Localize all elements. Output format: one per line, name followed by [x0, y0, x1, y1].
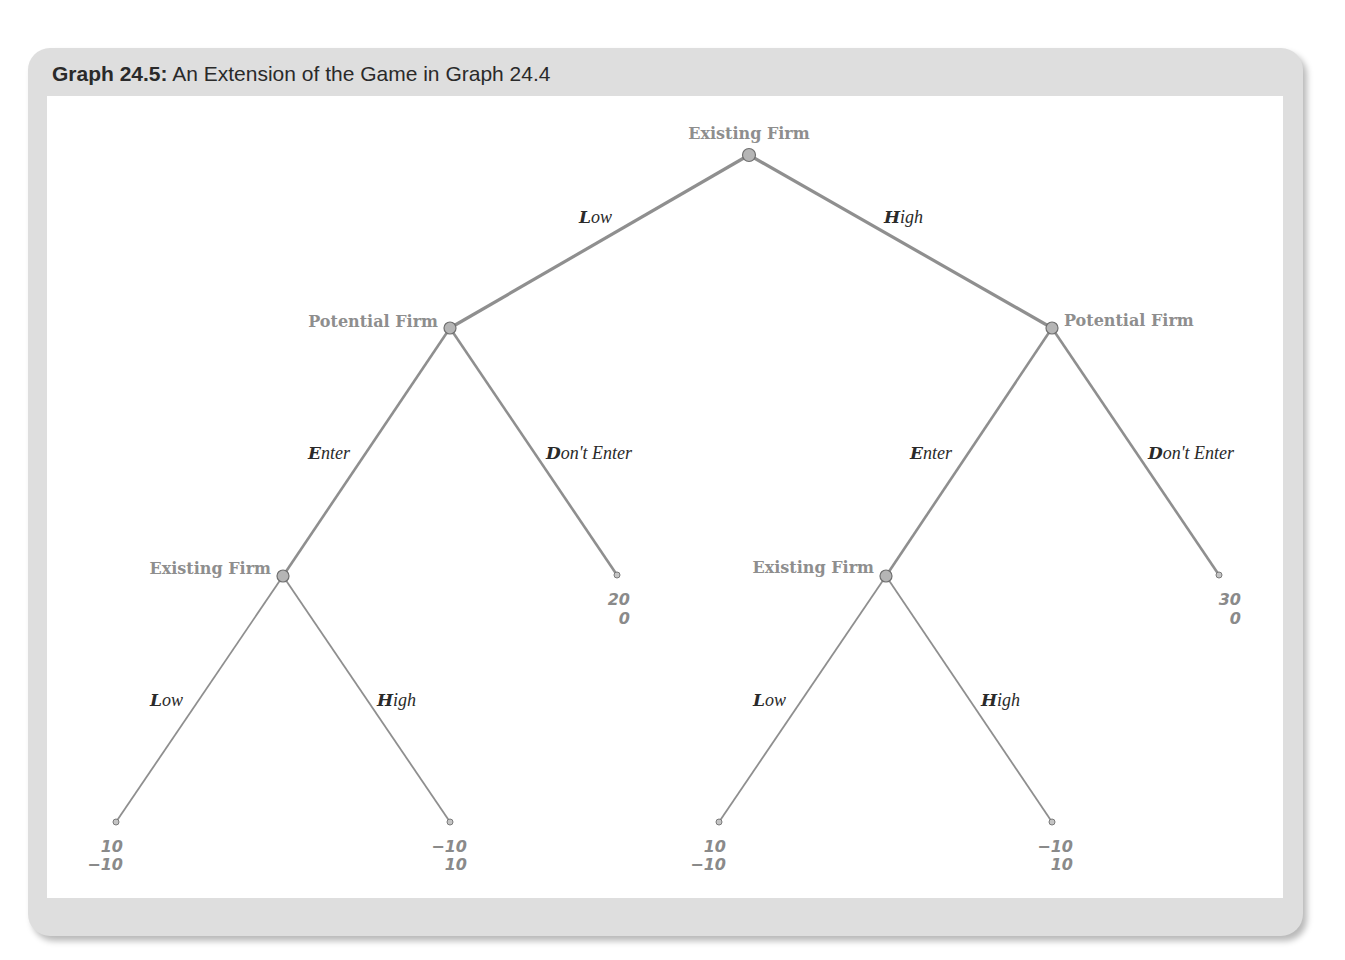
game-tree: Existing Firm Potential Firm Potential F…	[0, 0, 1345, 960]
edge-label-rest: on't Enter	[561, 443, 633, 463]
node-left-potential	[444, 322, 456, 334]
edge-label-rest: on't Enter	[1163, 443, 1235, 463]
edge-label-right-high: High	[980, 690, 1020, 710]
edge-root-low	[450, 155, 749, 328]
terminal-right-low	[716, 819, 722, 825]
edge-label-cap: L	[578, 207, 591, 227]
node-label-right-existing: Existing Firm	[753, 558, 875, 577]
edge-label-cap: L	[149, 690, 162, 710]
edge-label-rest: nter	[923, 443, 953, 463]
edge-label-cap: L	[752, 690, 765, 710]
node-label-left-existing: Existing Firm	[150, 559, 272, 578]
edge-label-cap: D	[545, 443, 561, 463]
payoff-left-low-potential: −10	[87, 855, 123, 874]
edge-label-right-dont-enter: Don't Enter	[1147, 443, 1235, 463]
terminal-left-dont-enter	[614, 572, 620, 578]
edge-left-high	[283, 576, 450, 822]
edge-label-cap: E	[909, 443, 924, 463]
payoff-left-low-existing: 10	[101, 837, 123, 856]
edge-label-cap: H	[376, 690, 394, 710]
edge-label-left-low: Low	[149, 690, 183, 710]
node-right-potential	[1046, 322, 1058, 334]
node-label-root: Existing Firm	[688, 124, 810, 143]
edge-label-left-dont-enter: Don't Enter	[545, 443, 633, 463]
node-label-left-potential: Potential Firm	[308, 312, 438, 331]
terminal-left-low	[113, 819, 119, 825]
edge-right-high	[886, 576, 1052, 822]
node-label-right-potential: Potential Firm	[1064, 311, 1194, 330]
edge-label-rest: igh	[997, 690, 1020, 710]
edge-label-cap: H	[883, 207, 901, 227]
payoff-right-dont-enter-potential: 0	[1230, 609, 1241, 628]
edge-label-left-high: High	[376, 690, 416, 710]
edge-label-root-low: Low	[578, 207, 612, 227]
edge-label-cap: D	[1147, 443, 1163, 463]
edge-label-rest: nter	[321, 443, 351, 463]
payoff-left-dont-enter-existing: 20	[608, 590, 630, 609]
terminal-right-dont-enter	[1216, 572, 1222, 578]
node-left-existing	[277, 570, 289, 582]
payoff-left-high-potential: 10	[445, 855, 467, 874]
payoff-right-low-potential: −10	[690, 855, 726, 874]
payoff-left-dont-enter-potential: 0	[619, 609, 630, 628]
edge-label-right-low: Low	[752, 690, 786, 710]
terminal-left-high	[447, 819, 453, 825]
edge-label-rest: ow	[765, 690, 786, 710]
edge-left-low	[116, 576, 283, 822]
edge-label-right-enter: Enter	[909, 443, 953, 463]
payoff-right-dont-enter-existing: 30	[1219, 590, 1241, 609]
edge-label-cap: H	[980, 690, 998, 710]
edge-label-root-high: High	[883, 207, 923, 227]
edge-right-low	[719, 576, 886, 822]
edge-label-left-enter: Enter	[307, 443, 351, 463]
payoff-right-low-existing: 10	[704, 837, 726, 856]
payoff-right-high-potential: 10	[1051, 855, 1073, 874]
edge-root-high	[749, 155, 1052, 328]
node-right-existing	[880, 570, 892, 582]
edge-label-rest: igh	[900, 207, 923, 227]
tree-edges	[116, 155, 1219, 822]
node-root	[743, 149, 756, 162]
terminal-right-high	[1049, 819, 1055, 825]
edge-label-rest: ow	[591, 207, 612, 227]
payoff-left-high-existing: −10	[431, 837, 467, 856]
edge-label-rest: igh	[393, 690, 416, 710]
payoff-right-high-existing: −10	[1037, 837, 1073, 856]
edge-label-rest: ow	[162, 690, 183, 710]
edge-label-cap: E	[307, 443, 322, 463]
